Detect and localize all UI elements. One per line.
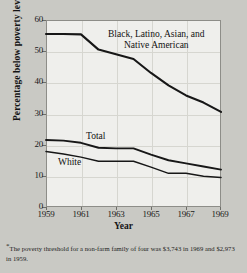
annotation-minority-line2: Native American bbox=[124, 40, 189, 50]
annotation-white-series: White bbox=[58, 157, 81, 168]
y-tick-label-50: 50 bbox=[17, 45, 43, 55]
annotation-minority-line1: Black, Latino, Asian, and bbox=[108, 29, 205, 39]
chart-footnote: *The poverty threshold for a non-farm fa… bbox=[6, 241, 241, 265]
y-tick-label-30: 30 bbox=[17, 108, 43, 118]
annotation-minority-series: Black, Latino, Asian, and Native America… bbox=[108, 29, 205, 50]
x-tick-label-1961: 1961 bbox=[61, 209, 101, 219]
chart-plot-wrapper: Percentage below poverty level 60 50 40 … bbox=[0, 0, 247, 232]
x-tick-label-1969: 1969 bbox=[200, 209, 240, 219]
y-tick-label-60: 60 bbox=[17, 14, 43, 24]
y-tick-label-40: 40 bbox=[17, 76, 43, 86]
x-tick-label-1963: 1963 bbox=[96, 209, 136, 219]
annotation-total-series: Total bbox=[86, 131, 105, 142]
x-tick-label-1959: 1959 bbox=[26, 209, 66, 219]
y-tick-label-20: 20 bbox=[17, 139, 43, 149]
x-axis-title: Year bbox=[0, 221, 247, 231]
y-tick-label-10: 10 bbox=[17, 170, 43, 180]
footnote-text: The poverty threshold for a non-farm fam… bbox=[6, 245, 235, 262]
poverty-rate-chart-figure: Percentage below poverty level 60 50 40 … bbox=[0, 0, 247, 273]
x-tick-label-1965: 1965 bbox=[131, 209, 171, 219]
